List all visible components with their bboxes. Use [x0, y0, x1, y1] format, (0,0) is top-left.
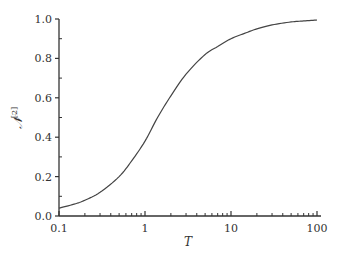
y-tick-label: 0.2 [35, 171, 53, 184]
y-tick-label: 0.8 [35, 52, 53, 65]
y-tick-label: 0.4 [35, 131, 53, 144]
y-axis-title-sup: [2] [10, 107, 19, 118]
y-axis-title: 𝒩[2] [10, 107, 25, 129]
y-tick-label: 1.0 [35, 13, 53, 26]
x-axis-title: T [184, 235, 193, 249]
y-axis: 0.00.20.40.60.81.0 [35, 13, 63, 223]
chart: 0.00.20.40.60.81.0 0.1110100 T 𝒩[2] [0, 0, 345, 261]
x-tick-label: 10 [224, 222, 238, 235]
y-tick-label: 0.6 [35, 92, 53, 105]
data-line [59, 20, 317, 208]
x-axis: 0.1110100 [50, 211, 327, 235]
x-tick-label: 100 [307, 222, 328, 235]
x-tick-label: 1 [142, 222, 149, 235]
x-tick-label: 0.1 [50, 222, 68, 235]
